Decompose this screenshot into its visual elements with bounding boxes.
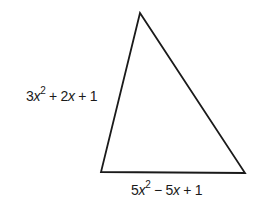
exponent: 2 [40,85,45,96]
coefficient: 5 [166,182,174,198]
left-side-label: 3x2 + 2x + 1 [26,87,97,103]
coefficient: 5 [131,182,139,198]
constant: 1 [195,182,203,198]
coefficient: 2 [61,88,69,104]
operator: + [78,88,86,104]
variable: x [68,88,75,104]
operator: − [154,182,162,198]
operator: + [183,182,191,198]
variable: x [173,182,180,198]
coefficient: 3 [26,88,34,104]
exponent: 2 [145,179,150,190]
constant: 1 [90,88,98,104]
triangle [101,13,245,173]
bottom-side-label: 5x2 − 5x + 1 [131,181,202,197]
operator: + [49,88,57,104]
